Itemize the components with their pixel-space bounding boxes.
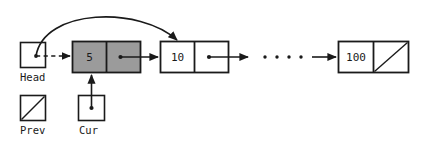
- pointer-box-prev: Prev: [20, 96, 46, 137]
- list-node-100: 100: [339, 42, 409, 73]
- node5-value: 5: [86, 51, 93, 64]
- node10-value: 10: [171, 51, 184, 64]
- ellipsis-dot: [287, 55, 290, 58]
- head-label: Head: [20, 71, 45, 83]
- cur-label: Cur: [79, 124, 98, 136]
- head-box-rect: [21, 43, 46, 68]
- ellipsis-dot: [275, 55, 278, 58]
- prev-label: Prev: [20, 124, 45, 136]
- linked-list-diagram: Head Prev Cur 5: [0, 0, 421, 146]
- node100-value: 100: [346, 51, 366, 64]
- pointer-box-head: Head: [20, 43, 46, 84]
- ellipsis-dots: [263, 55, 302, 58]
- diagram-canvas: Head Prev Cur 5: [0, 0, 421, 146]
- ellipsis-dot: [299, 55, 302, 58]
- ellipsis-dot: [263, 55, 266, 58]
